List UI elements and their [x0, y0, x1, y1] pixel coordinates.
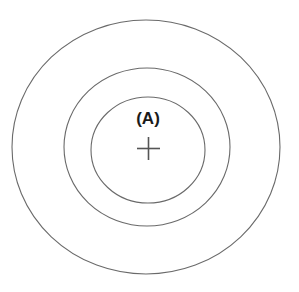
diagram-canvas: (A): [0, 0, 299, 292]
zone-a-label: (A): [136, 109, 160, 128]
diagram-background: [0, 0, 299, 292]
concentric-circles-diagram: (A): [0, 0, 299, 292]
